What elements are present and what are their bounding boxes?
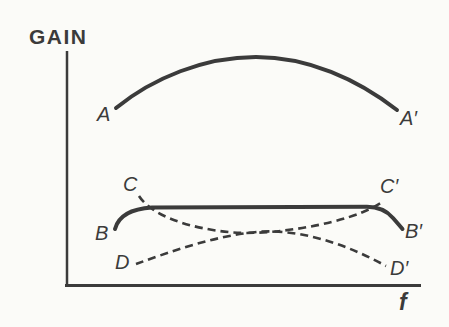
curve-C <box>139 196 384 233</box>
curve-a-start-label: A <box>97 104 110 124</box>
plot-canvas <box>0 0 449 327</box>
gain-vs-frequency-figure: GAIN f A A′ B B′ C C′ D D′ <box>0 0 449 327</box>
curve-D <box>136 231 386 266</box>
curve-b-end-label: B′ <box>405 221 422 241</box>
curve-b-start-label: B <box>95 223 108 243</box>
curve-c-start-label: C <box>123 174 137 194</box>
curve-a-end-label: A′ <box>400 108 417 128</box>
curve-A <box>116 57 397 110</box>
curve-d-end-label: D′ <box>390 258 408 278</box>
curve-c-end-label: C′ <box>380 176 398 196</box>
f-axis-label: f <box>399 291 407 314</box>
gain-axis-label: GAIN <box>29 26 88 47</box>
curve-B <box>115 207 403 229</box>
curve-d-start-label: D <box>115 252 129 272</box>
